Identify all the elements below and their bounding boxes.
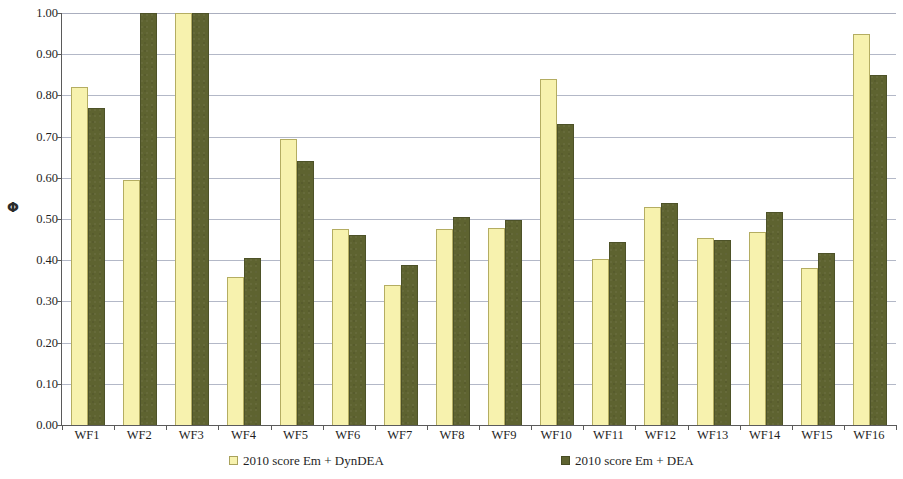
x-axis-tick-label: WF4: [231, 428, 256, 443]
bar-chart: Φ 1.000.900.800.700.600.500.400.300.200.…: [0, 0, 903, 479]
bar: [349, 235, 366, 425]
legend-label: 2010 score Em + DEA: [575, 454, 694, 467]
bar: [88, 108, 105, 425]
x-axis-tick-label: WF7: [387, 428, 412, 443]
bar-group: [479, 13, 531, 425]
y-axis-tick-label: 0.40: [22, 253, 58, 268]
x-axis-tick-label: WF14: [749, 428, 780, 443]
bar: [244, 258, 261, 425]
y-axis-tick-label: 0.00: [22, 418, 58, 433]
bar-group: [583, 13, 635, 425]
x-axis-tick-label: WF12: [645, 428, 676, 443]
bar: [453, 217, 470, 425]
bar: [714, 240, 731, 425]
x-axis-tick-mark: [896, 425, 897, 430]
bar-group: [166, 13, 218, 425]
bar: [818, 253, 835, 425]
bar: [697, 238, 714, 425]
legend-swatch-icon: [561, 456, 570, 465]
bar: [192, 13, 209, 425]
bar-group: [635, 13, 687, 425]
bar: [540, 79, 557, 425]
y-axis-tick-label: 0.20: [22, 335, 58, 350]
bar: [297, 161, 314, 425]
y-axis-tick-label: 0.30: [22, 294, 58, 309]
bar-group: [427, 13, 479, 425]
plot-area: [61, 13, 896, 426]
bar: [644, 207, 661, 425]
x-axis-tick-label: WF6: [335, 428, 360, 443]
bar: [227, 277, 244, 425]
bar-group: [531, 13, 583, 425]
y-axis-tick-label: 0.70: [22, 129, 58, 144]
x-axis-tick-label: WF3: [179, 428, 204, 443]
x-axis-tick-labels: WF1WF2WF3WF4WF5WF6WF7WF8WF9WF10WF11WF12W…: [61, 428, 895, 448]
x-axis-tick-label: WF16: [853, 428, 884, 443]
y-axis-tick-label: 0.50: [22, 212, 58, 227]
bar: [123, 180, 140, 425]
bar: [853, 34, 870, 425]
x-axis-tick-label: WF9: [492, 428, 517, 443]
legend-swatch-icon: [229, 456, 238, 465]
bar: [609, 242, 626, 425]
y-axis-tick-label: 0.10: [22, 376, 58, 391]
bar: [280, 139, 297, 425]
chart-legend: 2010 score Em + DynDEA2010 score Em + DE…: [61, 454, 895, 476]
bars-layer: [62, 13, 896, 425]
y-axis-title: Φ: [2, 200, 24, 214]
bar-group: [323, 13, 375, 425]
bar: [436, 229, 453, 425]
bar-group: [271, 13, 323, 425]
bar: [661, 203, 678, 425]
bar: [505, 220, 522, 425]
bar: [488, 228, 505, 425]
bar: [557, 124, 574, 425]
bar: [401, 265, 418, 425]
bar: [870, 75, 887, 425]
bar: [384, 285, 401, 425]
y-axis-tick-label: 0.80: [22, 88, 58, 103]
y-axis-tick-label: 0.90: [22, 47, 58, 62]
x-axis-tick-label: WF5: [283, 428, 308, 443]
bar-group: [740, 13, 792, 425]
x-axis-tick-label: WF2: [127, 428, 152, 443]
x-axis-tick-label: WF15: [801, 428, 832, 443]
y-axis-tick-labels: 1.000.900.800.700.600.500.400.300.200.10…: [22, 0, 58, 440]
y-axis-tick-label: 0.60: [22, 170, 58, 185]
y-axis-tick-label: 1.00: [22, 6, 58, 21]
bar-group: [688, 13, 740, 425]
bar-group: [844, 13, 896, 425]
bar: [801, 268, 818, 425]
x-axis-tick-label: WF8: [439, 428, 464, 443]
bar-group: [375, 13, 427, 425]
x-axis-tick-label: WF1: [75, 428, 100, 443]
x-axis-tick-label: WF10: [541, 428, 572, 443]
bar: [71, 87, 88, 425]
bar: [332, 229, 349, 425]
bar-group: [792, 13, 844, 425]
bar: [175, 13, 192, 425]
bar-group: [62, 13, 114, 425]
x-axis-tick-label: WF13: [697, 428, 728, 443]
bar: [592, 259, 609, 425]
bar-group: [114, 13, 166, 425]
legend-entry[interactable]: 2010 score Em + DynDEA: [229, 454, 384, 467]
x-axis-tick-label: WF11: [593, 428, 624, 443]
bar-group: [218, 13, 270, 425]
bar: [140, 13, 157, 425]
bar: [749, 232, 766, 425]
bar: [766, 212, 783, 425]
legend-entry[interactable]: 2010 score Em + DEA: [561, 454, 694, 467]
legend-label: 2010 score Em + DynDEA: [243, 454, 384, 467]
